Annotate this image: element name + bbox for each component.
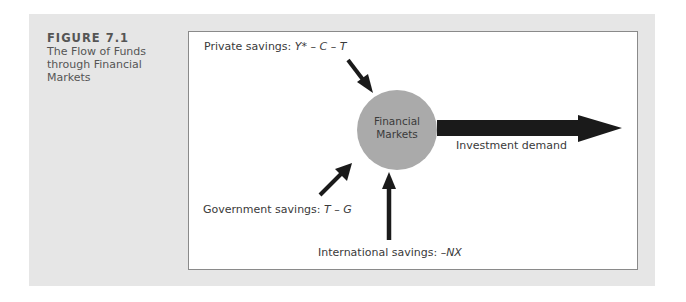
private-savings-label: Private savings: Y* – C – T <box>204 40 346 53</box>
government-savings-label: Government savings: T – G <box>203 203 352 216</box>
private-savings-formula: Y* – C – T <box>295 40 347 53</box>
international-savings-label: International savings: –NX <box>318 246 462 259</box>
investment-demand-arrow <box>437 115 622 142</box>
private-savings-text: Private savings: <box>204 40 291 53</box>
international-savings-text: International savings: <box>318 246 437 259</box>
government-savings-text: Government savings: <box>203 203 321 216</box>
node-label-line1: Financial <box>357 115 437 128</box>
international-savings-arrow <box>382 172 396 240</box>
investment-demand-label: Investment demand <box>456 139 567 152</box>
node-label-line2: Markets <box>357 128 437 141</box>
government-savings-formula: T – G <box>324 203 352 216</box>
government-savings-arrow <box>320 163 352 195</box>
financial-markets-label: Financial Markets <box>357 115 437 141</box>
international-savings-formula: –NX <box>441 246 462 259</box>
private-savings-arrow <box>348 60 373 93</box>
